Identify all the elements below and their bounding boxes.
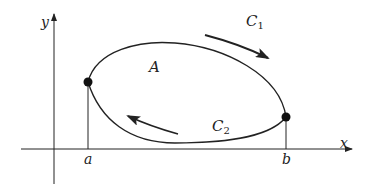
point-b-dot: [282, 113, 291, 122]
diagram-svg: y x a b A C1 C2: [0, 0, 370, 188]
c1-direction-arrow-icon: [205, 35, 268, 58]
curve-c1-label-main: C: [246, 12, 258, 30]
curve-c1-label: C1: [246, 12, 264, 31]
region-a-label: A: [147, 58, 160, 76]
point-b-label: b: [282, 151, 291, 167]
y-axis-label: y: [40, 14, 50, 30]
diagram-canvas: y x a b A C1 C2: [0, 0, 370, 188]
point-a-dot: [84, 78, 93, 87]
point-a-label: a: [84, 151, 92, 167]
curve-c2-label-main: C: [212, 117, 224, 135]
curve-c2-label: C2: [212, 117, 230, 136]
curve-c2: [88, 82, 286, 143]
curve-c1-label-sub: 1: [257, 20, 263, 31]
x-axis-label: x: [340, 135, 348, 151]
curve-c1: [88, 42, 286, 117]
curve-c2-label-sub: 2: [223, 125, 229, 136]
c2-direction-arrow-icon: [128, 116, 178, 134]
